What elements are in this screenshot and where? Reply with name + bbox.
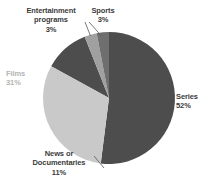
- pie-label-news-line1: News or: [45, 149, 73, 158]
- pie-label-entertainment-programs: Entertainment programs 3%: [13, 6, 89, 34]
- pie-label-series: Series 52%: [176, 92, 218, 111]
- pie-label-series-value: 52%: [176, 101, 218, 110]
- pie-label-entertainment-value: 3%: [13, 25, 89, 34]
- pie-slice-series[interactable]: [101, 32, 175, 164]
- pie-label-films-line1: Films: [6, 69, 25, 78]
- pie-label-entertainment-line1: Entertainment: [26, 6, 75, 15]
- pie-label-news-line2: Documentaries: [33, 158, 86, 167]
- pie-label-sports-line1: Sports: [91, 6, 114, 15]
- pie-label-sports: Sports 3%: [86, 6, 120, 25]
- pie-label-films: Films 31%: [6, 69, 50, 88]
- pie-label-sports-value: 3%: [86, 15, 120, 24]
- pie-label-news-or-documentaries: News or Documentaries 11%: [16, 149, 102, 177]
- pie-label-entertainment-line2: programs: [34, 15, 68, 24]
- pie-label-films-value: 31%: [6, 78, 50, 87]
- pie-chart: Entertainment programs 3% Sports 3% Film…: [0, 0, 218, 192]
- pie-label-news-value: 11%: [16, 168, 102, 177]
- pie-label-series-line1: Series: [176, 92, 198, 101]
